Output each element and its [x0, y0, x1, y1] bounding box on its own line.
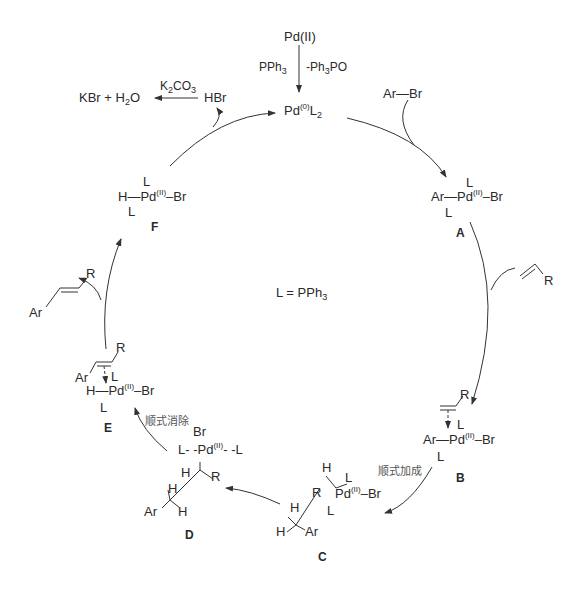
precatalyst-pd2: Pd(II) [284, 30, 316, 44]
pd0-catalyst: Pd(0)L2 [284, 104, 322, 118]
ligand-legend: L = PPh3 [276, 286, 327, 300]
hbr-byproduct: HBr [204, 91, 226, 105]
ph3po-byproduct: -Ph3PO [306, 60, 347, 74]
product-r: R [86, 267, 95, 281]
label-d: D [185, 528, 194, 542]
label-b: B [456, 471, 465, 485]
k2co3-base: K2CO3 [160, 79, 196, 93]
step-syn-addition: 顺式加成 [378, 462, 422, 478]
alkene-r: R [544, 274, 553, 288]
aryl-bromide: Ar—Br [383, 87, 422, 101]
label-e: E [104, 421, 112, 435]
product-ar: Ar [29, 306, 42, 320]
step-syn-elimination: 顺式消除 [145, 412, 189, 428]
label-f: F [151, 220, 158, 234]
label-c: C [318, 550, 327, 564]
label-a: A [456, 226, 465, 240]
pph3-reagent: PPh3 [259, 60, 287, 74]
kbr-h2o-salts: KBr + H2O [79, 91, 140, 105]
heck-catalytic-cycle: Pd(II) PPh3 -Ph3PO Pd(0)L2 HBr K2CO3 KBr… [0, 0, 579, 591]
